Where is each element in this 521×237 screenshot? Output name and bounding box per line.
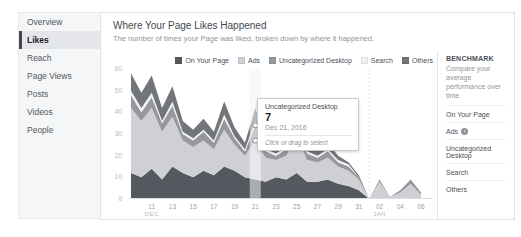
y-tick-label: 30 bbox=[115, 130, 122, 137]
legend-label: Uncategorized Desktop bbox=[279, 57, 352, 64]
tooltip-series-name: Uncategorized Desktop bbox=[265, 103, 351, 110]
y-tick-label: 20 bbox=[115, 152, 122, 159]
x-tick-label: 25 bbox=[293, 203, 300, 210]
tooltip-value: 7 bbox=[265, 111, 351, 123]
benchmark-item-ads[interactable]: Ads bbox=[446, 122, 506, 139]
x-tick-label: 17 bbox=[210, 203, 217, 210]
sidebar-item-page-views[interactable]: Page Views bbox=[19, 67, 100, 85]
facebook-insights-page: { "sidebar": { "items": [ {"label": "Ove… bbox=[0, 0, 521, 237]
y-tick-label: 0 bbox=[118, 195, 122, 202]
x-tick-label: 23 bbox=[272, 203, 279, 210]
x-tick-label: 31 bbox=[355, 203, 362, 210]
x-tick-label: 04 bbox=[397, 203, 404, 210]
on-your-page-swatch-icon bbox=[175, 57, 182, 64]
y-tick-label: 40 bbox=[115, 108, 122, 115]
benchmark-item-uncategorized-desktop[interactable]: Uncategorized Desktop bbox=[446, 139, 506, 163]
sidebar-item-overview[interactable]: Overview bbox=[19, 13, 100, 31]
chart-tooltip: Uncategorized Desktop 7 Dec 21, 2016 Cli… bbox=[257, 98, 359, 151]
x-tick-label: 19 bbox=[231, 203, 238, 210]
legend-item-search[interactable]: Search bbox=[361, 57, 393, 64]
benchmark-heading: BENCHMARK bbox=[446, 55, 506, 62]
sidebar-item-posts[interactable]: Posts bbox=[19, 85, 100, 103]
y-axis: 60 50 40 30 20 10 0 bbox=[101, 69, 125, 199]
y-tick-label: 60 bbox=[115, 65, 122, 72]
tooltip-divider bbox=[265, 135, 351, 136]
page-title: Where Your Page Likes Happened bbox=[113, 20, 502, 31]
benchmark-item-label: On Your Page bbox=[446, 111, 490, 118]
legend-label: On Your Page bbox=[185, 57, 229, 64]
x-tick-label: 27 bbox=[314, 203, 321, 210]
x-tick-label: 21 bbox=[252, 203, 259, 210]
y-tick-label: 50 bbox=[115, 87, 122, 94]
likes-panel: Where Your Page Likes Happened The numbe… bbox=[100, 12, 515, 220]
x-tick-label: 11 bbox=[148, 203, 155, 210]
chart-legend: On Your Page Ads Uncategorized Desktop S… bbox=[101, 55, 433, 65]
x-tick-label: 02 bbox=[376, 203, 383, 210]
search-swatch-icon bbox=[361, 57, 368, 64]
x-tick-label: 29 bbox=[335, 203, 342, 210]
legend-label: Ads bbox=[248, 57, 260, 64]
benchmark-item-on-your-page[interactable]: On Your Page bbox=[446, 105, 506, 122]
benchmark-item-search[interactable]: Search bbox=[446, 163, 506, 180]
tooltip-hint: Click or drag to select bbox=[265, 139, 351, 146]
x-axis: 11 13 15 17 19 21 23 25 27 29 31 02 04 0… bbox=[129, 201, 433, 221]
info-icon[interactable] bbox=[461, 128, 468, 135]
panel-header: Where Your Page Likes Happened The numbe… bbox=[101, 13, 514, 43]
chart-region: On Your Page Ads Uncategorized Desktop S… bbox=[101, 51, 437, 219]
x-tick-label: 06 bbox=[417, 203, 424, 210]
legend-item-uncategorized-desktop[interactable]: Uncategorized Desktop bbox=[269, 57, 352, 64]
benchmark-item-label: Ads bbox=[446, 128, 458, 135]
legend-item-ads[interactable]: Ads bbox=[238, 57, 260, 64]
uncategorized-desktop-swatch-icon bbox=[269, 57, 276, 64]
x-tick-label: 15 bbox=[190, 203, 197, 210]
legend-label: Others bbox=[412, 57, 433, 64]
benchmark-description: Compare your average performance over ti… bbox=[446, 64, 506, 100]
page-subtitle: The number of times your Page was liked,… bbox=[113, 34, 502, 43]
legend-label: Search bbox=[371, 57, 393, 64]
sidebar-item-reach[interactable]: Reach bbox=[19, 49, 100, 67]
benchmark-item-others[interactable]: Others bbox=[446, 180, 506, 197]
month-label-dec: DEC bbox=[145, 211, 159, 217]
benchmark-item-label: Uncategorized Desktop bbox=[446, 145, 506, 159]
sidebar-item-people[interactable]: People bbox=[19, 121, 100, 139]
sidebar-item-videos[interactable]: Videos bbox=[19, 103, 100, 121]
month-label-jan: JAN bbox=[373, 211, 386, 217]
panel-content: On Your Page Ads Uncategorized Desktop S… bbox=[101, 51, 514, 219]
insights-sidebar: Overview Likes Reach Page Views Posts Vi… bbox=[18, 12, 100, 219]
tooltip-date: Dec 21, 2016 bbox=[265, 124, 351, 131]
benchmark-item-label: Search bbox=[446, 169, 468, 176]
benchmark-item-label: Others bbox=[446, 186, 467, 193]
sidebar-item-likes[interactable]: Likes bbox=[19, 31, 100, 49]
ads-swatch-icon bbox=[238, 57, 245, 64]
others-swatch-icon bbox=[402, 57, 409, 64]
legend-item-others[interactable]: Others bbox=[402, 57, 433, 64]
benchmark-panel: BENCHMARK Compare your average performan… bbox=[437, 51, 514, 219]
x-tick-label: 13 bbox=[169, 203, 176, 210]
y-tick-label: 10 bbox=[115, 173, 122, 180]
legend-item-on-your-page[interactable]: On Your Page bbox=[175, 57, 229, 64]
